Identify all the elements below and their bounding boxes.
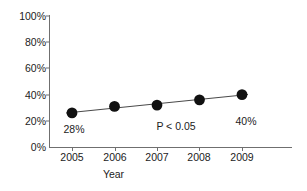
data-point-2005 (67, 108, 78, 119)
data-point-2008 (194, 94, 205, 105)
y-tick-label-40: 40% (2, 89, 46, 101)
trend-line (66, 95, 248, 114)
data-point-2009 (237, 89, 248, 100)
data-point-2007 (152, 100, 163, 111)
y-tick-mark-20 (46, 121, 49, 122)
x-tick-label-2009: 2009 (230, 151, 253, 163)
x-tick-label-2005: 2005 (60, 151, 83, 163)
x-tick-label-2006: 2006 (103, 151, 126, 163)
first-point-value-label: 28% (63, 123, 84, 135)
x-axis-title-text: Year (103, 168, 124, 180)
x-tick-label-2008: 2008 (187, 151, 210, 163)
y-tick-label-100: 100% (2, 10, 46, 22)
p-value-label: P < 0.05 (156, 120, 195, 132)
y-tick-label-80: 80% (2, 36, 46, 48)
y-tick-mark-60 (46, 68, 49, 69)
y-tick-label-60: 60% (2, 62, 46, 74)
y-axis-line (49, 15, 50, 148)
x-axis-line (49, 147, 292, 148)
y-tick-label-0: 0% (2, 141, 46, 153)
y-tick-mark-100 (46, 16, 49, 17)
y-axis-ticks: 100% 80% 60% 40% 20% 0% (0, 0, 46, 191)
y-tick-mark-40 (46, 95, 49, 96)
chart-figure: 100% 80% 60% 40% 20% 0% 2005 2006 2007 2… (0, 0, 307, 191)
y-tick-label-20: 20% (2, 115, 46, 127)
last-point-value-label: 40% (235, 115, 256, 127)
x-axis-title: Year (0, 168, 307, 180)
y-tick-mark-80 (46, 42, 49, 43)
x-tick-label-2007: 2007 (145, 151, 168, 163)
data-point-2006 (109, 101, 120, 112)
